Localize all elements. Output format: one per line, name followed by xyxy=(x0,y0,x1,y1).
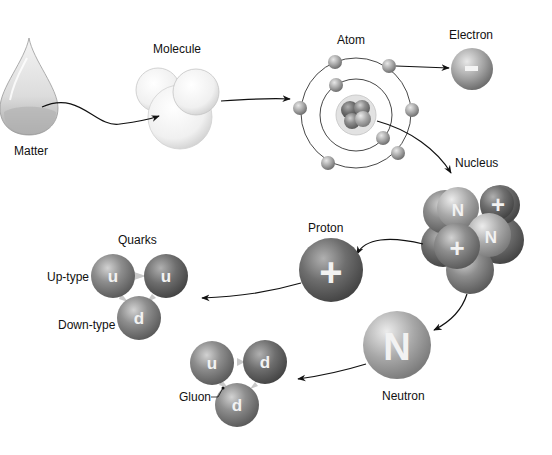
arrow-atom-to-nucleus xyxy=(377,121,451,173)
proton-icon: + xyxy=(299,238,363,302)
arrow-atom-to-electron xyxy=(396,66,449,68)
up-type-label: Up-type xyxy=(47,270,89,284)
atom-nucleus-icon xyxy=(341,100,371,129)
electron-icon xyxy=(451,48,493,90)
matter-label: Matter xyxy=(14,144,48,158)
electron-label: Electron xyxy=(449,28,493,42)
neutron-quarks-icon: u d d xyxy=(190,340,287,427)
gluon-pointer-dot xyxy=(222,387,225,390)
proton-symbol: + xyxy=(319,250,342,294)
nucleus-label: Nucleus xyxy=(455,156,498,170)
atom-label: Atom xyxy=(337,33,365,47)
quark-up: u xyxy=(207,354,217,373)
quarks-label: Quarks xyxy=(118,233,157,247)
quark-up: u xyxy=(108,267,118,286)
quark-down: d xyxy=(134,309,144,328)
nucleus-proton-symbol: + xyxy=(491,191,505,218)
gluon-label: Gluon xyxy=(179,390,211,404)
nucleus-icon: N + N + xyxy=(421,185,524,294)
matter-droplet xyxy=(0,38,58,135)
arrow-neutron-to-quarks xyxy=(298,364,366,379)
matter-structure-diagram: Matter Molecule Atom xyxy=(0,0,552,455)
quark-down: d xyxy=(260,353,270,372)
atom-icon xyxy=(293,55,419,170)
molecule-label: Molecule xyxy=(153,42,201,56)
arrow-proton-to-quarks xyxy=(202,283,301,298)
neutron-label: Neutron xyxy=(382,389,425,403)
nucleus-proton-symbol: + xyxy=(449,233,464,263)
neutron-symbol: N xyxy=(383,326,410,368)
arrow-nucleus-to-neutron xyxy=(434,294,467,330)
neutron-icon: N xyxy=(363,311,431,379)
arrow-molecule-to-atom xyxy=(221,99,290,101)
down-type-label: Down-type xyxy=(58,318,116,332)
arrow-matter-to-molecule xyxy=(42,103,159,125)
nucleus-neutron-symbol: N xyxy=(452,201,464,220)
molecule-icon xyxy=(136,68,219,149)
quark-up: u xyxy=(161,267,171,286)
proton-label: Proton xyxy=(308,221,343,235)
quark-down: d xyxy=(232,396,242,415)
arrow-nucleus-to-proton xyxy=(357,239,423,254)
nucleus-neutron-symbol: N xyxy=(485,228,497,247)
